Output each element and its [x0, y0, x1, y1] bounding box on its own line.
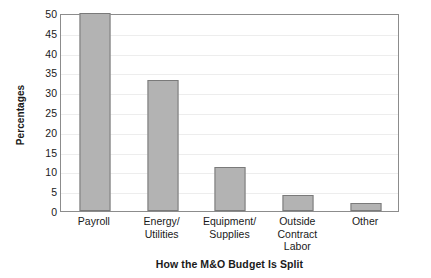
- bar-slot: [61, 15, 129, 211]
- bar[interactable]: [351, 203, 382, 211]
- y-tick-label: 20: [45, 127, 57, 138]
- bar[interactable]: [147, 80, 178, 211]
- y-tick-label: 10: [45, 167, 57, 178]
- y-tick-label: 50: [45, 9, 57, 20]
- bar-chart-figure: Percentages 05101520253035404550 Payroll…: [0, 0, 431, 278]
- x-axis-tick-labels: PayrollEnergy/UtilitiesEquipment/Supplie…: [60, 215, 399, 257]
- y-axis-title: Percentages: [14, 50, 28, 180]
- bar-slot: [332, 15, 400, 211]
- y-tick-label: 40: [45, 48, 57, 59]
- y-tick-label: 45: [45, 28, 57, 39]
- y-tick-label: 35: [45, 68, 57, 79]
- x-tick-label: Other: [322, 215, 408, 228]
- x-tick-label-line: Other: [322, 215, 408, 228]
- x-tick-label-line: Labor: [254, 240, 340, 253]
- bar-slot: [129, 15, 197, 211]
- x-axis-title: How the M&O Budget Is Split: [60, 258, 399, 270]
- y-tick-label: 15: [45, 147, 57, 158]
- x-tick-label-line: Contract: [254, 228, 340, 241]
- bar[interactable]: [283, 195, 314, 211]
- bar[interactable]: [215, 167, 246, 211]
- y-tick-label: 30: [45, 88, 57, 99]
- plot-area: [60, 14, 399, 212]
- y-tick-label: 25: [45, 108, 57, 119]
- y-tick-label: 5: [51, 187, 57, 198]
- y-axis-tick-labels: 05101520253035404550: [33, 14, 57, 212]
- bar-slot: [197, 15, 265, 211]
- bar-slot: [264, 15, 332, 211]
- bars-layer: [61, 15, 398, 211]
- bar[interactable]: [79, 13, 110, 211]
